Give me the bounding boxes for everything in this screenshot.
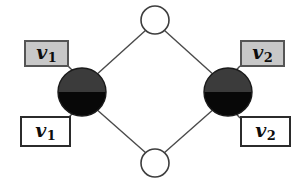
label-box-v1-shaded[interactable]: v1: [24, 40, 69, 67]
label-box-v1-shaded-text: v1: [36, 43, 57, 64]
bottom-open-node[interactable]: [141, 149, 169, 177]
diagram-canvas: v1 v1 v2 v2: [0, 0, 308, 183]
top-open-node[interactable]: [141, 6, 169, 34]
edge-left-node-to-bottom: [95, 108, 146, 153]
graph-svg: [0, 0, 308, 183]
label-box-v1-plain[interactable]: v1: [20, 116, 71, 147]
left-half-node[interactable]: [58, 68, 106, 116]
edge-right-node-to-bottom: [164, 108, 215, 153]
label-box-v1-plain-text: v1: [35, 121, 56, 142]
label-box-v2-shaded-text: v2: [252, 43, 273, 64]
edge-top-to-right-node: [164, 30, 215, 76]
label-box-v2-plain-text: v2: [255, 121, 276, 142]
diamond-edges: [95, 30, 215, 153]
right-half-node[interactable]: [204, 68, 252, 116]
label-box-v2-shaded[interactable]: v2: [240, 40, 285, 67]
edge-top-to-left-node: [95, 30, 146, 76]
label-box-v2-plain[interactable]: v2: [240, 116, 291, 147]
